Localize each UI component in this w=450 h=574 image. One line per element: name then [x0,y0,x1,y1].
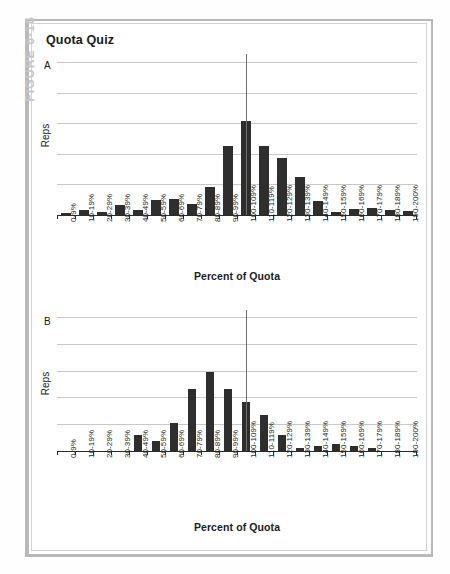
x-tick-label: 20-29% [105,430,114,458]
x-axis-tick [57,451,58,455]
x-tick-label: 150-159% [339,421,348,458]
x-tick-label: 40-49% [141,430,150,458]
x-tick-label: 60-69% [177,430,186,458]
x-axis-title: Percent of Quota [57,521,417,533]
x-tick-label: 160-169% [357,421,366,458]
chart-panel-b: BReps0-9%10-19%20-29%30-39%40-49%50-59%6… [0,0,450,574]
x-tick-label: 140-149% [321,421,330,458]
x-tick-label: 180-189% [393,421,402,458]
gridline [57,344,417,345]
x-tick-label: 50-59% [159,430,168,458]
x-tick-label: 0-9% [69,439,78,458]
quota-reference-line [246,310,247,451]
x-tick-label: 10-19% [87,430,96,458]
y-axis-label: Reps [40,369,51,399]
x-tick-label: 90-99% [231,430,240,458]
x-tick-label: 120-129% [285,421,294,458]
x-tick-label: 100-109% [249,421,258,458]
x-tick-label: 110-119% [267,422,276,458]
x-tick-label: 170-179% [375,421,384,458]
x-tick-label: 30-39% [123,430,132,458]
x-tick-label: 130-139% [303,421,312,458]
x-tick-label: 70-79% [195,430,204,458]
gridline [57,317,417,318]
figure-page: FIGURE 6-16 Quota Quiz AReps0-9%10-19%20… [0,0,450,574]
gridline [57,371,417,372]
panel-letter-b: B [44,316,51,327]
x-tick-label: 80-89% [213,430,222,458]
gridline [57,397,417,398]
x-tick-label: 190-200% [411,421,420,458]
